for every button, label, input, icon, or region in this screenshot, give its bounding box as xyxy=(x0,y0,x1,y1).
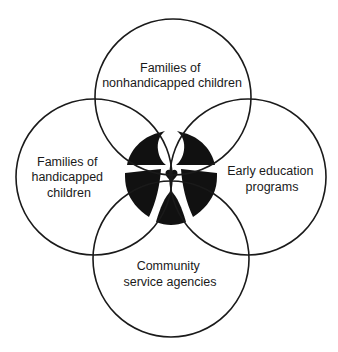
label-left: Families of handicapped children xyxy=(31,155,106,200)
circle-top xyxy=(95,19,251,175)
center-emblem xyxy=(125,131,217,225)
label-top: Families of nonhandicapped children xyxy=(102,61,242,90)
emblem-bottom-segment xyxy=(156,191,186,225)
label-right: Early education programs xyxy=(227,164,317,194)
label-bottom: Community service agencies xyxy=(123,259,216,289)
overlapping-circles-diagram: Families of nonhandicapped children Fami… xyxy=(0,0,338,352)
